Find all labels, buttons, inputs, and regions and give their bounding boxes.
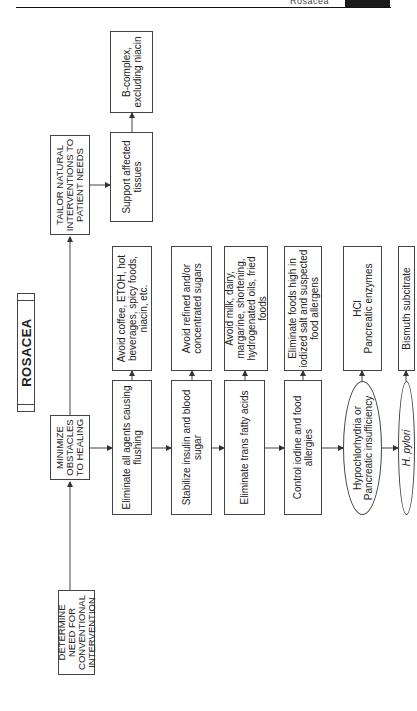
obstacle-hypochlorhydria: Hypochlorhydria or Pancreatic insufficie… <box>343 381 382 515</box>
determine-box: DETERMINE NEED FOR CONVENTIONAL INTERVEN… <box>58 590 95 675</box>
detail-pancreatic-enzymes: Pancreatic enzymes <box>363 263 374 353</box>
obstacle-iodine: Control iodine and food allergies <box>284 380 322 515</box>
detail-flushing: Avoid coffee, ETOH, hot beverages, spicy… <box>112 246 152 371</box>
obstacle-h-pylori: H. pylori <box>398 381 415 515</box>
b-complex-box: B-complex, excluding niacin <box>110 31 153 113</box>
detail-hcl: HCl <box>352 300 363 317</box>
tailor-box: TAILOR NATURAL INTERVENTIONS TO PATIENT … <box>50 135 90 235</box>
detail-hcl-enzymes: HCl Pancreatic enzymes <box>343 246 382 371</box>
detail-iodine: Eliminate foods high in iodized salt and… <box>284 246 322 371</box>
diagram-title: ROSACEA <box>17 293 35 412</box>
support-tissues-box: Support affected tissues <box>110 132 153 222</box>
flowchart: ROSACEA DETERMINE NEED FOR CONVENTIONAL … <box>0 0 417 711</box>
detail-insulin: Avoid refined and/or concentrated sugars <box>171 246 212 371</box>
detail-trans-fats: Avoid milk, dairy, margarine, shortening… <box>224 246 268 371</box>
detail-bismuth: Bismuth subcitrate <box>398 246 415 371</box>
minimize-box: MINIMIZE OBSTACLES TO HEALING <box>50 415 90 480</box>
obstacle-insulin: Stabilize insulin and blood sugar <box>171 380 212 515</box>
obstacle-flushing: Eliminate all agents causing flushing <box>112 380 152 515</box>
obstacle-trans-fats: Eliminate trans fatty acids <box>224 380 265 515</box>
